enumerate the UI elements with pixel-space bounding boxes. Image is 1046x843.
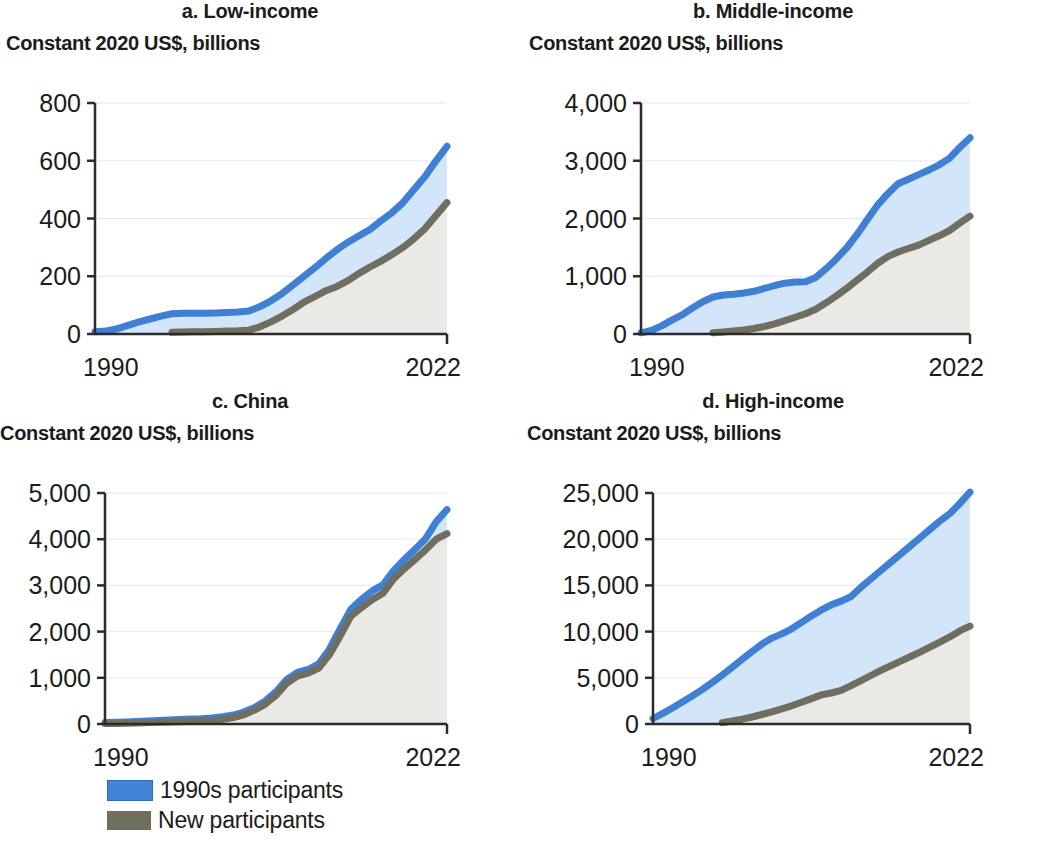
panel-c-ytick-label: 0 (77, 710, 91, 738)
panel-d-ytick-label: 25,000 (563, 479, 639, 507)
panel-d-ytick-label: 0 (625, 710, 639, 738)
panel-d-ytick-label: 20,000 (563, 525, 639, 553)
figure-panel-grid: a. Low-income Constant 2020 US$, billion… (0, 0, 1046, 770)
panel-a-ytick-label: 200 (39, 262, 81, 290)
panel-c-svg: 01,0002,0003,0004,0005,00019902022 (0, 390, 500, 775)
panel-d-ytick-label: 15,000 (563, 571, 639, 599)
panel-d-ytick-label: 5,000 (576, 664, 639, 692)
panel-b-svg: 01,0002,0003,0004,00019902022 (523, 0, 1023, 385)
panel-a-ytick-label: 400 (39, 205, 81, 233)
legend-label-new-participants: New participants (158, 807, 325, 834)
panel-c-ytick-label: 5,000 (28, 479, 91, 507)
panel-c-xtick-start: 1990 (93, 743, 149, 771)
panel-d-svg: 05,00010,00015,00020,00025,00019902022 (523, 390, 1023, 775)
legend: 1990s participants New participants (107, 777, 343, 834)
panel-a-ytick-label: 600 (39, 147, 81, 175)
panel-b-ytick-label: 1,000 (564, 262, 627, 290)
panel-c-ytick-label: 2,000 (28, 618, 91, 646)
panel-d-plot: 05,00010,00015,00020,00025,00019902022 (523, 390, 1023, 775)
panel-c-ytick-label: 1,000 (28, 664, 91, 692)
panel-c-ytick-label: 4,000 (28, 525, 91, 553)
legend-item-new-participants: New participants (107, 807, 343, 834)
panel-d-high-income: d. High-income Constant 2020 US$, billio… (523, 390, 1023, 775)
panel-d-xtick-end: 2022 (928, 743, 984, 771)
panel-c-plot: 01,0002,0003,0004,0005,00019902022 (0, 390, 500, 775)
legend-label-1990s-participants: 1990s participants (160, 777, 343, 804)
panel-c-ytick-label: 3,000 (28, 571, 91, 599)
panel-c-xtick-end: 2022 (405, 743, 461, 771)
panel-a-xtick-start: 1990 (83, 353, 139, 381)
panel-b-xtick-start: 1990 (629, 353, 685, 381)
panel-b-ytick-label: 0 (613, 320, 627, 348)
legend-item-1990s-participants: 1990s participants (107, 777, 343, 804)
panel-b-ytick-label: 3,000 (564, 147, 627, 175)
panel-b-plot: 01,0002,0003,0004,00019902022 (523, 0, 1023, 385)
panel-a-plot: 020040060080019902022 (0, 0, 500, 385)
panel-b-middle-income: b. Middle-income Constant 2020 US$, bill… (523, 0, 1023, 385)
panel-a-ytick-label: 800 (39, 89, 81, 117)
panel-b-xtick-end: 2022 (928, 353, 984, 381)
panel-a-ytick-label: 0 (67, 320, 81, 348)
panel-a-low-income: a. Low-income Constant 2020 US$, billion… (0, 0, 500, 385)
panel-a-xtick-end: 2022 (405, 353, 461, 381)
panel-d-xtick-start: 1990 (641, 743, 697, 771)
panel-b-ytick-label: 2,000 (564, 205, 627, 233)
legend-swatch-new-participants (107, 811, 151, 830)
panel-a-svg: 020040060080019902022 (0, 0, 500, 385)
legend-swatch-1990s-participants (107, 780, 153, 801)
panel-d-ytick-label: 10,000 (563, 618, 639, 646)
panel-c-china: c. China Constant 2020 US$, billions 01,… (0, 390, 500, 775)
panel-b-ytick-label: 4,000 (564, 89, 627, 117)
